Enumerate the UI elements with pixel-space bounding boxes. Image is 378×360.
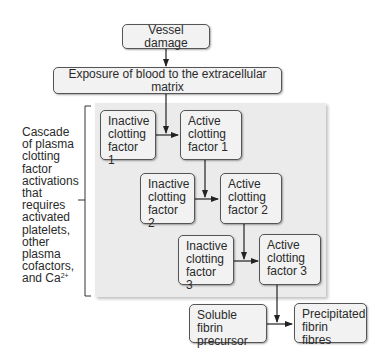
node-line: factor 3 [267, 265, 313, 278]
vessel-damage-node: Vessel damage [122, 24, 210, 49]
exposure-node: Exposure of blood to the extracellular m… [53, 67, 282, 94]
side-label-line: platelets, [22, 224, 79, 236]
inactive-factor-2-node: Inactive clotting factor 2 [140, 173, 195, 224]
node-line: precursor [197, 335, 259, 348]
inactive-factor-3-node: Inactive clotting factor 3 [178, 235, 234, 285]
active-factor-2-node: Active clotting factor 2 [220, 173, 282, 224]
active-factor-3-node: Active clotting factor 3 [259, 234, 321, 285]
exposure-label: Exposure of blood to the extracellular m… [61, 68, 274, 94]
vessel-damage-label: Vessel damage [130, 24, 202, 50]
cascade-side-label: Cascade of plasma clotting factor activa… [22, 126, 79, 285]
node-line: factor 1 [108, 141, 148, 167]
side-label-line: activated [22, 211, 79, 223]
active-factor-1-node: Active clotting factor 1 [180, 110, 242, 160]
calcium-text: and Ca [22, 271, 61, 285]
calcium-charge: 2+ [61, 272, 69, 279]
side-label-line: factor [22, 163, 79, 175]
side-label-line: and Ca2+ [22, 272, 79, 284]
node-line: factor 1 [188, 141, 234, 154]
soluble-fibrin-node: Soluble fibrin precursor [189, 304, 267, 343]
node-line: fibrin fibres [302, 321, 359, 347]
inactive-factor-1-node: Inactive clotting factor 1 [100, 110, 156, 160]
node-line: factor 2 [148, 204, 187, 230]
precipitated-fibrin-node: Precipitated fibrin fibres [294, 303, 367, 343]
side-label-line: clotting [22, 150, 79, 162]
node-line: factor 3 [186, 266, 226, 292]
node-line: factor 2 [228, 204, 274, 217]
node-line: Soluble fibrin [197, 309, 259, 335]
